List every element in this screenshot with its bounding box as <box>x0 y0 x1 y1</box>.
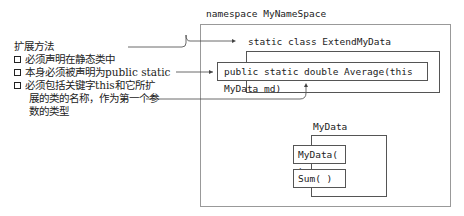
namespace-label: namespace MyNameSpace <box>206 8 326 19</box>
checkbox-bullet-icon <box>14 69 21 76</box>
sum-method-box: Sum( ) <box>293 169 346 188</box>
note-item-continuation: 数的类型 <box>14 105 194 118</box>
checkbox-bullet-icon <box>14 56 21 63</box>
extend-class-label: static class ExtendMyData <box>246 36 393 47</box>
note-item-continuation: 展的类的名称，作为第一个参 <box>14 92 194 105</box>
note-item: 必须包括关键字this和它所扩 <box>14 79 194 92</box>
sum-method-label: Sum( ) <box>298 173 332 184</box>
extension-method-notes: 扩展方法 必须声明在静态类中 本身必须被声明为public static 必须包… <box>14 40 194 118</box>
average-method-box: public static double Average(this MyData… <box>217 62 428 81</box>
note-item: 必须声明在静态类中 <box>14 53 194 66</box>
mydata-constructor-box: MyData( ) <box>293 145 346 164</box>
checkbox-bullet-icon <box>14 82 21 89</box>
mydata-class-label: MyData <box>313 121 347 132</box>
notes-title: 扩展方法 <box>14 40 194 53</box>
note-item: 本身必须被声明为public static <box>14 66 194 79</box>
